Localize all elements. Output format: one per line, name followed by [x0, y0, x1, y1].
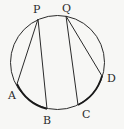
chord-QC [66, 16, 78, 105]
label-D: D [107, 72, 116, 85]
label-P: P [33, 3, 41, 16]
label-A: A [7, 89, 17, 102]
arc-CD [78, 76, 102, 105]
chord-QD [66, 16, 102, 76]
label-B: B [43, 114, 51, 127]
chord-PA [17, 19, 38, 84]
circle-chord-diagram: P Q A B C D [0, 0, 124, 129]
label-Q: Q [62, 2, 71, 15]
chord-PB [38, 19, 47, 109]
arc-AB [17, 84, 47, 109]
label-C: C [82, 108, 90, 121]
